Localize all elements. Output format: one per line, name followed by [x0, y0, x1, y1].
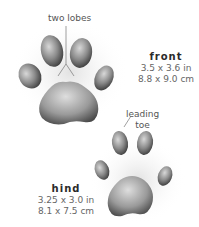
front-title: front [136, 51, 196, 63]
hind-size-cm: 8.1 x 7.5 cm [34, 206, 98, 217]
front-paw-print [12, 20, 128, 124]
leading-toe-label-line1: leading [126, 109, 159, 120]
leading-toe-label: leading toe [126, 109, 159, 131]
front-size-cm: 8.8 x 9.0 cm [136, 74, 196, 85]
paw-prints-illustration [0, 0, 199, 227]
two-lobes-label: two lobes [48, 13, 91, 24]
hind-size-in: 3.25 x 3.0 in [34, 195, 98, 206]
hind-paw-print [90, 130, 186, 224]
leading-toe-label-line2: toe [126, 120, 159, 131]
front-measurements: front 3.5 x 3.6 in 8.8 x 9.0 cm [136, 51, 196, 85]
hind-title: hind [34, 183, 98, 195]
hind-measurements: hind 3.25 x 3.0 in 8.1 x 7.5 cm [34, 183, 98, 217]
front-size-in: 3.5 x 3.6 in [136, 63, 196, 74]
